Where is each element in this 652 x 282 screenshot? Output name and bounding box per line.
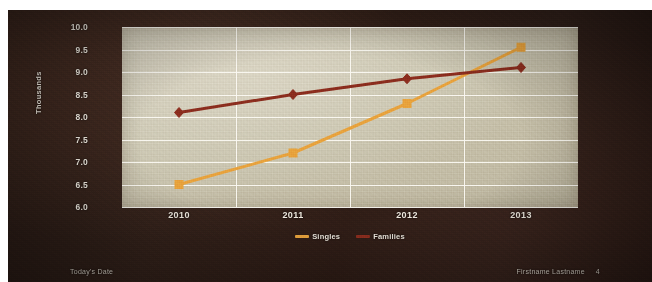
data-point-marker xyxy=(517,63,526,73)
series-line-families xyxy=(179,68,521,113)
legend-swatch-icon xyxy=(356,235,370,238)
data-point-marker xyxy=(289,90,298,100)
y-axis-tick: 8.5 xyxy=(76,90,88,100)
x-axis-tick-labels: 2010201120122013 xyxy=(122,210,578,228)
line-chart: Thousands 10.09.59.08.58.07.57.06.56.0 2… xyxy=(8,10,652,282)
slide-photograph: Thousands 10.09.59.08.58.07.57.06.56.0 2… xyxy=(0,0,652,282)
legend-label: Singles xyxy=(312,232,340,241)
footer-date-label: Today's Date xyxy=(70,268,113,275)
x-axis-tick: 2010 xyxy=(168,210,190,220)
y-axis-tick: 7.0 xyxy=(76,157,88,167)
legend-item-families: Families xyxy=(356,232,405,241)
y-axis-tick: 9.5 xyxy=(76,45,88,55)
data-point-marker xyxy=(175,181,183,189)
y-axis-tick: 6.0 xyxy=(76,202,88,212)
y-axis-tick: 6.5 xyxy=(76,180,88,190)
plot-area xyxy=(122,27,578,207)
slide-page-number: 4 xyxy=(596,268,600,275)
x-axis-tick: 2011 xyxy=(282,210,303,220)
x-axis-tick: 2013 xyxy=(510,210,532,220)
horizontal-gridline xyxy=(122,207,578,208)
data-point-marker xyxy=(517,43,525,51)
y-axis-tick: 10.0 xyxy=(71,22,88,32)
legend-label: Families xyxy=(373,232,405,241)
footer-author-label: Firstname Lastname xyxy=(517,268,585,275)
data-point-marker xyxy=(175,108,184,118)
x-axis-tick: 2012 xyxy=(396,210,418,220)
footer-right-group: Firstname Lastname 4 xyxy=(517,268,600,275)
data-point-marker xyxy=(289,149,297,157)
data-point-marker xyxy=(403,100,411,108)
legend-swatch-icon xyxy=(295,235,309,238)
y-axis-title: Thousands xyxy=(34,71,43,114)
y-axis-tick-labels: 10.09.59.08.58.07.57.06.56.0 xyxy=(46,18,88,208)
chart-legend: SinglesFamilies xyxy=(122,232,578,241)
series-line-singles xyxy=(179,47,521,184)
data-point-marker xyxy=(403,74,412,84)
legend-item-singles: Singles xyxy=(295,232,340,241)
slide-surface: Thousands 10.09.59.08.58.07.57.06.56.0 2… xyxy=(8,10,652,282)
y-axis-tick: 9.0 xyxy=(76,67,88,77)
series-lines xyxy=(122,27,578,207)
y-axis-tick: 8.0 xyxy=(76,112,88,122)
y-axis-tick: 7.5 xyxy=(76,135,88,145)
